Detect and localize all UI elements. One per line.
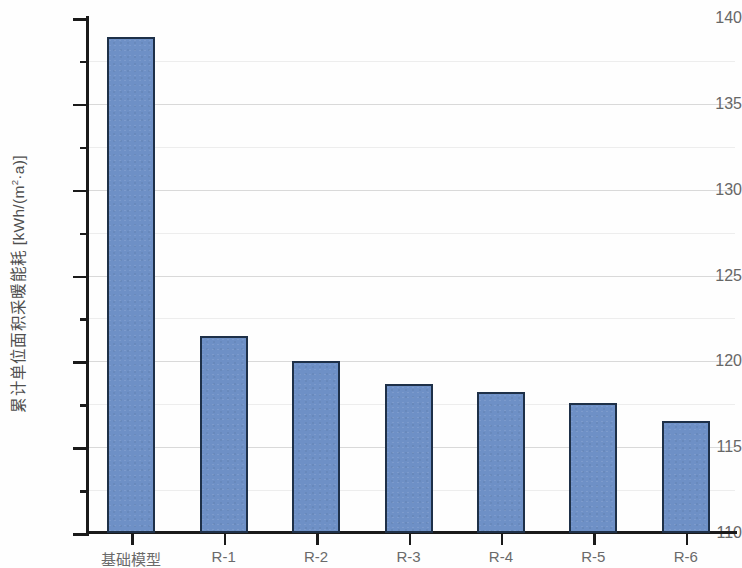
x-axis-tick-label: 基础模型 (101, 548, 161, 568)
x-axis-tick (316, 533, 319, 545)
x-axis-tick (409, 533, 412, 545)
x-axis-tick-label: R-3 (396, 548, 420, 565)
bar (662, 421, 710, 533)
x-axis-tick-label: R-1 (212, 548, 236, 565)
bar (569, 403, 617, 533)
x-axis-tick-label: R-5 (581, 548, 605, 565)
x-axis-tick (593, 533, 596, 545)
x-axis-tick (686, 533, 689, 545)
plot-area (88, 18, 735, 533)
bar (385, 384, 433, 533)
x-axis-tick (131, 533, 134, 545)
x-axis-tick (501, 533, 504, 545)
bar-chart: 累计单位面积采暖能耗 [kWh/(m2·a)] 1101151201251301… (0, 0, 742, 568)
bar (292, 361, 340, 533)
y-axis-title-superscript: 2 (9, 180, 20, 186)
x-axis-tick-label: R-4 (489, 548, 513, 565)
y-axis-title-prefix: 累计单位面积采暖能耗 [kWh/(m (10, 185, 27, 412)
bar (200, 336, 248, 533)
x-axis-tick (224, 533, 227, 545)
bar (477, 392, 525, 533)
x-axis-tick-label: R-2 (304, 548, 328, 565)
y-axis-title-suffix: ·a)] (10, 155, 27, 179)
y-axis-title-wrapper: 累计单位面积采暖能耗 [kWh/(m2·a)] (0, 0, 34, 568)
y-axis-title: 累计单位面积采暖能耗 [kWh/(m2·a)] (6, 155, 28, 413)
x-axis-tick-label: R-6 (674, 548, 698, 565)
bar (107, 37, 155, 533)
